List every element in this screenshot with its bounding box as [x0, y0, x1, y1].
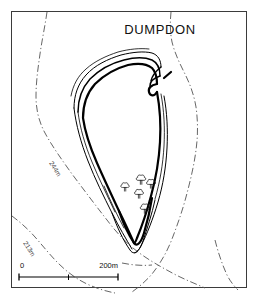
contour-244m-path [36, 12, 205, 288]
rampart-main-crest-north [83, 64, 157, 118]
tree-canopy-icon [134, 189, 143, 194]
tree-symbol [134, 189, 143, 198]
contour-labels-group: 244m 213m [22, 160, 63, 258]
rampart-main-crest-west [83, 118, 134, 243]
entrance-outwork-mark [164, 72, 171, 78]
tree-trunk-icon [150, 184, 151, 188]
scale-bar-end-label: 200m [99, 261, 118, 270]
contour-213m-path [12, 216, 115, 293]
rampart-inner-ditch-southwest [104, 186, 124, 228]
hillfort-ramparts-group [71, 49, 171, 253]
rampart-south-tip-inner [119, 198, 152, 245]
site-plan-svg: 244m 213m [0, 0, 258, 294]
contour-lower-right-path [215, 240, 238, 290]
contour-right-path [132, 12, 198, 292]
tree-trunk-icon [138, 194, 139, 198]
rampart-outer-bank-north [74, 52, 161, 108]
contour-label-244m: 244m [48, 160, 63, 178]
scale-bar: 0 200m [19, 261, 118, 281]
map-title: DUMPDON [124, 22, 195, 37]
tree-canopy-icon [136, 175, 146, 180]
map-figure: 244m 213m [0, 0, 258, 294]
tree-canopy-icon [121, 183, 130, 188]
tree-symbol [136, 175, 146, 184]
contour-scalebar-tail-path [122, 263, 152, 265]
tree-symbol [121, 183, 130, 191]
tree-trunk-icon [124, 187, 125, 191]
contour-label-213m: 213m [22, 240, 37, 258]
scale-bar-start-label: 0 [20, 261, 24, 270]
tree-trunk-icon [140, 180, 141, 184]
